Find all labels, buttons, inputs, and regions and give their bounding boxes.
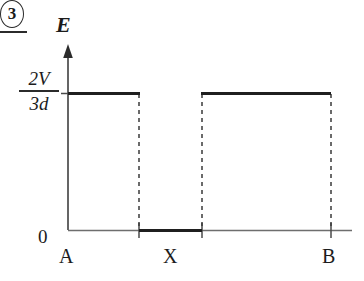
plot-canvas bbox=[0, 0, 364, 281]
field-transition-lines bbox=[139, 94, 331, 230]
field-step-curve bbox=[68, 94, 331, 231]
y-axis bbox=[63, 44, 73, 230]
field-vs-position-figure: E 3 2V 3d 0 A X B bbox=[0, 0, 364, 281]
